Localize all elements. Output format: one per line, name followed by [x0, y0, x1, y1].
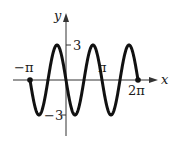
- y-axis-label: y: [53, 8, 62, 23]
- sine-graph: x y 3 −3 −π π 2π: [0, 0, 177, 143]
- y-tick-label-3: 3: [73, 38, 81, 53]
- x-axis-arrow-icon: [149, 77, 158, 83]
- y-tick-label-neg3: −3: [44, 108, 63, 123]
- y-axis-arrow-icon: [63, 13, 69, 22]
- end-point: [135, 77, 141, 83]
- start-point: [27, 77, 33, 83]
- x-tick-label-neg-pi: −π: [14, 60, 34, 75]
- x-tick-label-2pi: 2π: [128, 83, 145, 98]
- x-axis-label: x: [161, 72, 169, 87]
